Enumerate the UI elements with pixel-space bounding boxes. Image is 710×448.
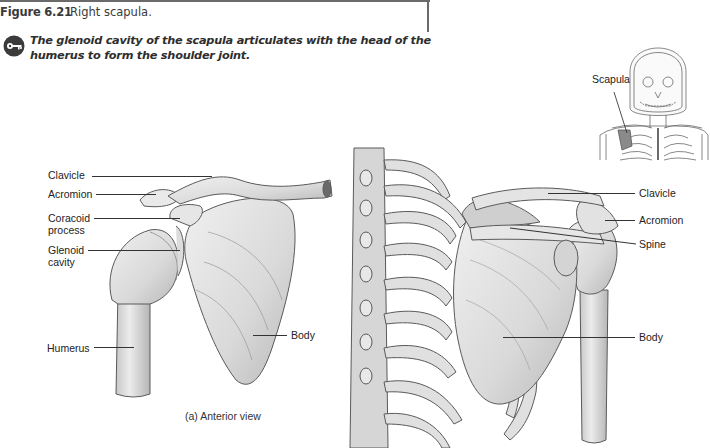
label-acromion-anterior: Acromion (48, 188, 92, 200)
anterior-view-drawing (110, 177, 332, 397)
leader-line-spine (510, 226, 638, 248)
label-coracoid-line2: process (48, 224, 85, 236)
label-humerus: Humerus (47, 342, 90, 354)
label-coracoid-line1: Coracoid (48, 212, 90, 224)
leader-line (88, 250, 180, 251)
label-glenoid-line1: Glenoid (48, 244, 84, 256)
inset-skeleton (600, 48, 708, 160)
label-acromion-posterior: Acromion (639, 214, 683, 226)
label-glenoid-line2: cavity (48, 256, 75, 268)
leader-line (605, 220, 635, 221)
scapula-illustration (0, 0, 710, 448)
leader-line (253, 335, 287, 336)
leader-line (96, 194, 156, 195)
label-clavicle-anterior: Clavicle (48, 169, 85, 181)
label-body-anterior: Body (291, 329, 315, 341)
inset-label-scapula: Scapula (592, 73, 630, 85)
leader-line (548, 193, 635, 194)
label-body-posterior: Body (639, 331, 663, 343)
leader-line (503, 337, 635, 338)
leader-line (94, 347, 134, 348)
leader-line (94, 218, 180, 219)
label-clavicle-posterior: Clavicle (639, 187, 676, 199)
caption-anterior-view: (a) Anterior view (185, 410, 261, 422)
label-spine: Spine (639, 238, 666, 250)
leader-line (92, 176, 212, 177)
